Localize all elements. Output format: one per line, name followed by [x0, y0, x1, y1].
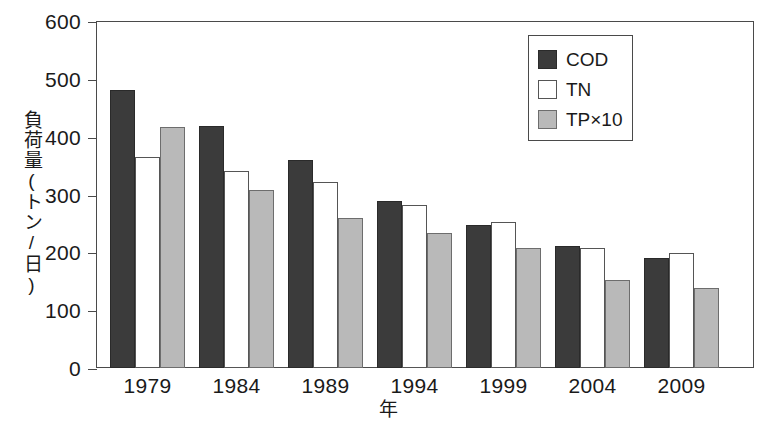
y-axis-tick-label: 600 — [45, 11, 81, 32]
bar-COD-1984 — [199, 126, 224, 368]
bar-COD-2009 — [644, 258, 669, 368]
bar-TN-1984 — [224, 171, 249, 368]
legend-item-label: COD — [566, 50, 608, 69]
legend-item-label: TP×10 — [566, 110, 623, 129]
y-axis-tick-label: 500 — [45, 69, 81, 90]
x-axis-tick-label: 1999 — [456, 375, 551, 397]
bar-TP10-1989 — [338, 218, 363, 368]
bar-TN-2004 — [580, 248, 605, 368]
x-axis-tick-label: 2004 — [545, 375, 640, 397]
legend-item: TP×10 — [538, 104, 632, 134]
bar-TN-2009 — [669, 253, 694, 368]
bar-TN-1979 — [135, 157, 160, 368]
bar-TN-1999 — [491, 222, 516, 368]
legend: CODTNTP×10 — [528, 35, 633, 141]
bar-COD-1994 — [377, 201, 402, 368]
bar-TP10-1994 — [427, 233, 452, 368]
bar-TP10-2009 — [694, 288, 719, 368]
bar-TP10-1984 — [249, 190, 274, 368]
bar-COD-1999 — [466, 225, 491, 368]
x-axis-tick-label: 1984 — [189, 375, 284, 397]
legend-item-label: TN — [566, 80, 591, 99]
y-axis-tick: 0 — [88, 369, 97, 370]
bar-COD-1979 — [110, 90, 135, 368]
legend-item: COD — [538, 44, 632, 74]
y-axis-tick-label: 400 — [45, 127, 81, 148]
x-axis-tick-label: 2009 — [634, 375, 729, 397]
bar-chart: 負荷量(トン/日) 0100200300400500600 1979198419… — [0, 0, 776, 433]
y-axis-title: 負荷量(トン/日) — [14, 110, 42, 296]
x-axis-tick-label: 1989 — [278, 375, 373, 397]
y-axis-tick-label: 200 — [45, 242, 81, 263]
legend-swatch-icon — [538, 110, 557, 129]
bar-TP10-2004 — [605, 280, 630, 368]
y-axis-tick-label: 300 — [45, 185, 81, 206]
x-axis-tick-label: 1994 — [367, 375, 462, 397]
legend-swatch-icon — [538, 80, 557, 99]
legend-swatch-icon — [538, 50, 557, 69]
bar-TP10-1979 — [160, 127, 185, 368]
y-axis-tick-label: 0 — [69, 358, 81, 379]
bar-COD-1989 — [288, 160, 313, 368]
bars-layer — [96, 21, 754, 368]
bar-TN-1989 — [313, 182, 338, 368]
x-axis-tick-label: 1979 — [100, 375, 195, 397]
bar-TN-1994 — [402, 205, 427, 368]
legend-item: TN — [538, 74, 632, 104]
x-axis-title: 年 — [0, 400, 776, 420]
bar-TP10-1999 — [516, 248, 541, 368]
bar-COD-2004 — [555, 246, 580, 368]
y-axis-tick-label: 100 — [45, 300, 81, 321]
